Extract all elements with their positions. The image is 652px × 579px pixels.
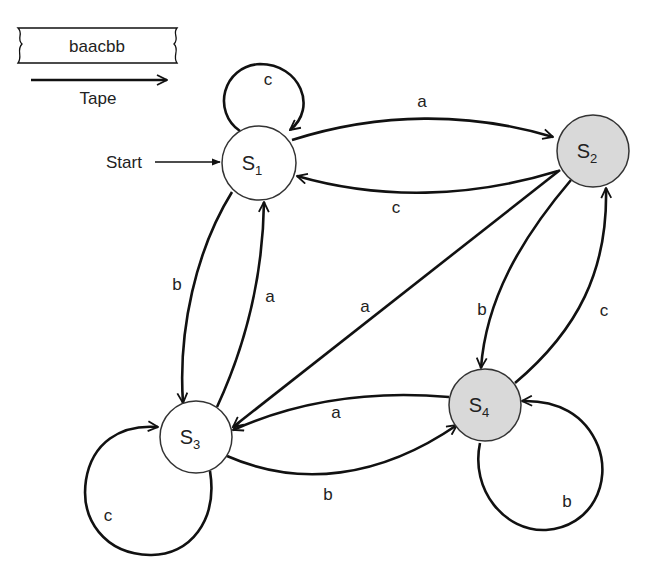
transition-label: c [392,198,401,217]
transition-label: a [417,92,427,111]
transition-s3-s1 [217,202,264,407]
transition-s1-s3 [182,192,232,403]
transition-s2-s1 [297,171,558,193]
tape-label: Tape [80,89,117,108]
transition-s4-s2 [515,188,606,383]
transition-label: a [360,297,370,316]
transition-label: c [264,70,273,89]
transition-label: c [104,506,113,525]
state-s3: S3 [160,401,232,473]
tape-content: baacbb [69,37,125,56]
transition-label: c [600,301,609,320]
transition-label: a [331,403,341,422]
start-indicator: Start [106,153,220,172]
state-s4: S4 [449,369,521,441]
transition-label: b [172,275,181,294]
tape: baacbb Tape [18,28,177,108]
state-s1: S1 [222,126,296,200]
state-diagram: baacbb Tape Start c a c b a a b c [0,0,652,579]
transition-label: b [477,300,486,319]
transition-label: b [562,492,571,511]
transitions: c a c b a a b c a b c b [85,64,609,555]
transition-s1-s2 [292,119,553,140]
transition-label: a [265,287,275,306]
transition-s3-s4 [227,425,457,474]
start-label: Start [106,153,142,172]
transition-label: b [323,485,332,504]
state-s2: S2 [557,115,629,187]
